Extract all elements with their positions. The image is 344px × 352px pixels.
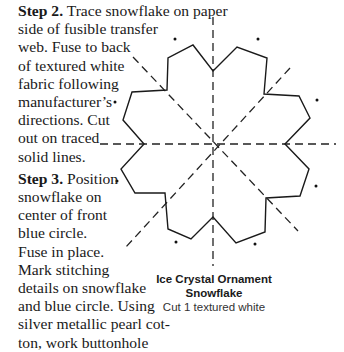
step-3-label: Step 3. (18, 170, 63, 187)
pattern-title-line2: Snowflake (134, 287, 294, 301)
pattern-title-line1: Ice Crystal Ornament (134, 273, 294, 287)
step-2-label: Step 2. (18, 2, 63, 19)
pattern-cut-instruction: Cut 1 textured white (134, 300, 294, 314)
step-3-paragraph: Step 3. Position snowflake on center of … (18, 170, 344, 352)
step-2-paragraph: Step 2. Trace snowflake on paper side of… (18, 2, 344, 166)
pattern-caption: Ice Crystal Ornament Snowflake Cut 1 tex… (134, 273, 294, 314)
